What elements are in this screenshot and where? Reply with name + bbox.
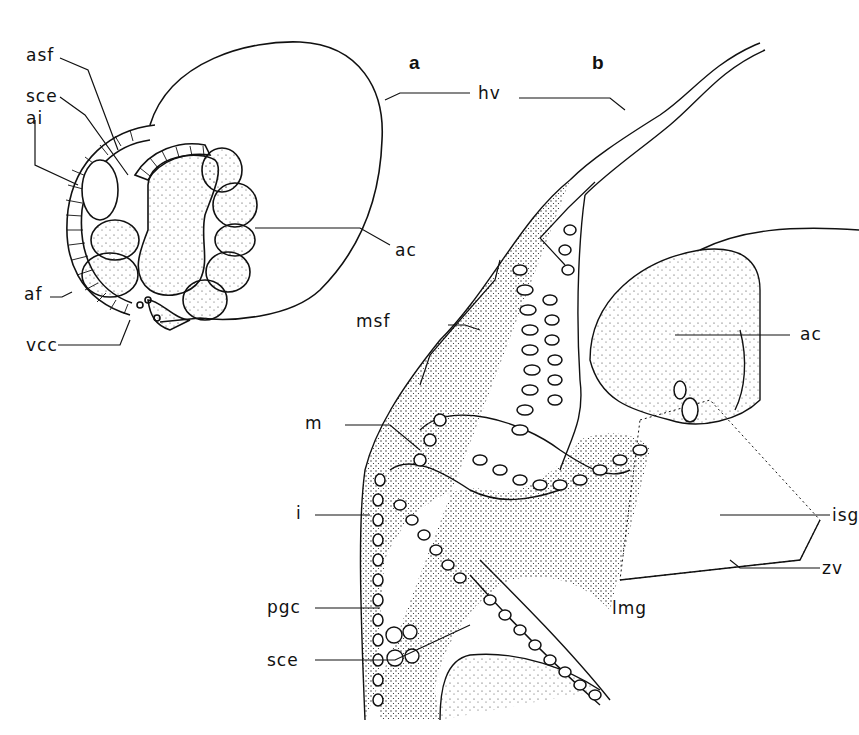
panel-b-label: b (592, 52, 604, 74)
figure: a b asf sce ai af vcc ac hv msf ac m i i… (0, 0, 859, 735)
label-i: i (296, 505, 302, 522)
label-zv: zv (822, 560, 843, 577)
panel-a-drawing (66, 42, 382, 330)
label-ac-a: ac (395, 242, 417, 259)
label-ac-b: ac (800, 326, 822, 343)
label-ai: ai (26, 110, 43, 127)
label-sce-b: sce (267, 652, 299, 669)
label-asf: asf (26, 47, 54, 64)
panel-a-label: a (409, 52, 420, 74)
label-isg: isg (832, 507, 859, 524)
figure-drawing (0, 0, 859, 735)
label-pgc: pgc (267, 599, 301, 616)
label-lmg: lmg (612, 600, 647, 617)
label-vcc: vcc (26, 337, 58, 354)
label-hv: hv (478, 85, 501, 102)
label-sce-a: sce (26, 88, 58, 105)
panel-b-drawing (360, 43, 859, 720)
label-msf: msf (356, 313, 390, 330)
label-af: af (24, 286, 42, 303)
label-m: m (305, 415, 323, 432)
